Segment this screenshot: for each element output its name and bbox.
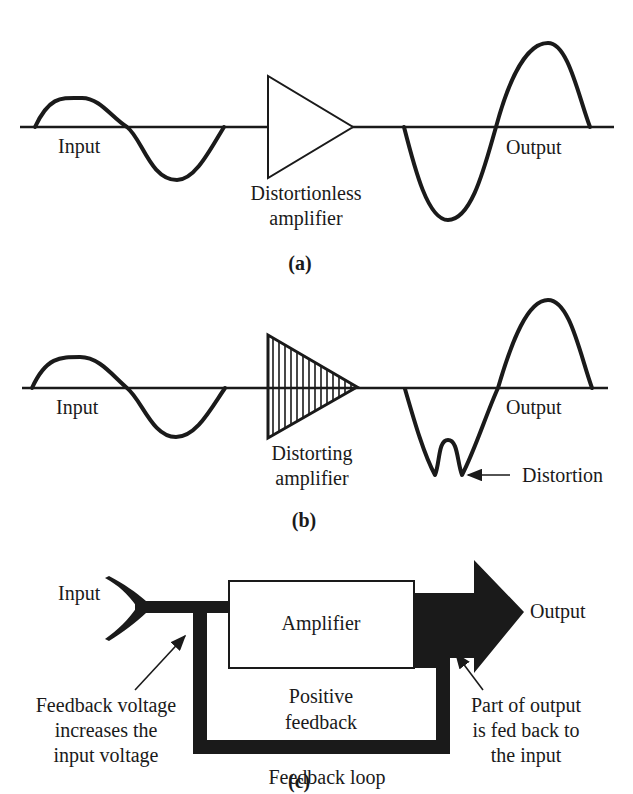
amplifier-label-b-line2: amplifier <box>275 467 349 490</box>
left-note-line1: Feedback voltage <box>36 694 177 717</box>
panel-b: Input Output Distortion Distorting ampli… <box>22 300 608 532</box>
right-note-line1: Part of output <box>471 694 581 717</box>
caption-a: (a) <box>288 252 311 275</box>
right-note-line2: is fed back to <box>472 719 579 741</box>
input-label-b: Input <box>56 396 99 419</box>
feedback-loop-bottom <box>193 740 450 754</box>
panel-a: Input Output Distortionless amplifier (a… <box>20 43 614 275</box>
amplifier-label: Amplifier <box>282 612 361 635</box>
left-note-line3: input voltage <box>54 744 159 767</box>
feedback-loop-label: Feedback loop <box>268 766 385 789</box>
output-label-b: Output <box>506 396 562 419</box>
input-signal-path <box>135 601 230 613</box>
caption-b: (b) <box>292 509 316 532</box>
input-label-a: Input <box>58 135 101 158</box>
amplifier-feedback-diagram: Input Output Distortionless amplifier (a… <box>0 0 633 794</box>
output-waveform-a <box>404 43 590 220</box>
left-note-line2: increases the <box>55 719 158 741</box>
amplifier-label-a-line1: Distortionless <box>250 182 361 204</box>
amplifier-label-b-line1: Distorting <box>271 442 352 465</box>
panel-c: Amplifier Input Output Positive feedback… <box>36 560 586 789</box>
left-note-pointer-arrow <box>135 636 185 690</box>
positive-feedback-line1: Positive <box>289 685 354 707</box>
amplifier-label-a-line2: amplifier <box>269 207 343 230</box>
feedback-loop-left <box>193 606 207 754</box>
right-note-line3: the input <box>491 744 562 767</box>
distortionless-amplifier-triangle <box>268 76 353 178</box>
positive-feedback-line2: feedback <box>285 711 357 733</box>
output-label-c: Output <box>530 600 586 623</box>
input-label-c: Input <box>58 582 101 605</box>
caption-c-visible: (c) <box>288 770 310 793</box>
distortion-label: Distortion <box>522 464 603 486</box>
output-junction <box>414 640 450 668</box>
output-label-a: Output <box>506 136 562 159</box>
distorting-amplifier-triangle <box>268 335 357 438</box>
